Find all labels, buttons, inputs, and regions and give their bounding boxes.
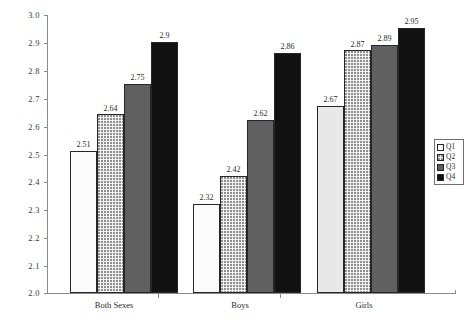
legend-item-q1[interactable]: Q1 (437, 142, 461, 152)
y-axis-tick (44, 15, 48, 16)
bar-boys-q4 (274, 53, 301, 293)
legend-label-q1: Q1 (446, 143, 455, 151)
y-axis-label: 2.0 (0, 289, 40, 297)
y-axis-label: 2.9 (0, 39, 40, 47)
bar-bothsexes-q4 (151, 42, 178, 293)
x-axis-category-label: Boys (194, 300, 286, 310)
y-axis-label: 2.7 (0, 95, 40, 103)
legend: Q1 Q2 Q3 Q4 (434, 139, 464, 185)
legend-label-q3: Q3 (446, 163, 455, 171)
bar-value-label: 2.95 (390, 17, 433, 26)
x-axis-category-label: Girls (318, 300, 410, 310)
y-axis-tick (44, 155, 48, 156)
y-axis-tick (44, 99, 48, 100)
y-axis-label: 2.5 (0, 151, 40, 159)
y-axis-tick (44, 210, 48, 211)
bar-girls-q4 (398, 28, 425, 293)
bar-boys-q2 (220, 176, 247, 293)
x-axis-line (47, 293, 455, 294)
y-axis-label: 3.0 (0, 11, 40, 19)
bar-bothsexes-q1 (70, 151, 97, 293)
legend-label-q4: Q4 (446, 173, 455, 181)
y-axis-tick (44, 43, 48, 44)
y-axis-tick (44, 266, 48, 267)
y-axis-label: 2.6 (0, 123, 40, 131)
bar-chart: 3.0 2.9 2.8 2.7 2.6 2.5 2.4 2.3 2.2 2.1 … (0, 0, 471, 323)
y-axis-tick (44, 127, 48, 128)
y-axis-label: 2.2 (0, 234, 40, 242)
y-axis-tick (44, 238, 48, 239)
bar-girls-q3 (371, 45, 398, 293)
x-axis-category-label: Both Sexes (68, 300, 160, 310)
legend-swatch-q4-icon (437, 174, 444, 181)
x-axis-tick-end (455, 290, 456, 294)
legend-label-q2: Q2 (446, 153, 455, 161)
bar-value-label: 2.86 (266, 42, 309, 51)
x-axis-tick (158, 293, 159, 298)
bar-bothsexes-q3 (124, 84, 151, 293)
y-axis-label: 2.4 (0, 178, 40, 186)
y-axis-tick (44, 182, 48, 183)
bar-bothsexes-q2 (97, 114, 124, 293)
bar-boys-q1 (193, 204, 220, 293)
legend-swatch-q3-icon (437, 164, 444, 171)
legend-item-q4[interactable]: Q4 (437, 172, 461, 182)
bar-boys-q3 (247, 120, 274, 293)
bar-value-label: 2.9 (143, 31, 186, 40)
bar-girls-q1 (317, 106, 344, 293)
y-axis-label: 2.8 (0, 67, 40, 75)
legend-item-q3[interactable]: Q3 (437, 162, 461, 172)
y-axis-label: 2.1 (0, 262, 40, 270)
legend-item-q2[interactable]: Q2 (437, 152, 461, 162)
legend-swatch-q2-icon (437, 154, 444, 161)
x-axis-tick (280, 293, 281, 298)
legend-swatch-q1-icon (437, 144, 444, 151)
y-axis-tick (44, 71, 48, 72)
bar-girls-q2 (344, 50, 371, 293)
y-axis-label: 2.3 (0, 206, 40, 214)
